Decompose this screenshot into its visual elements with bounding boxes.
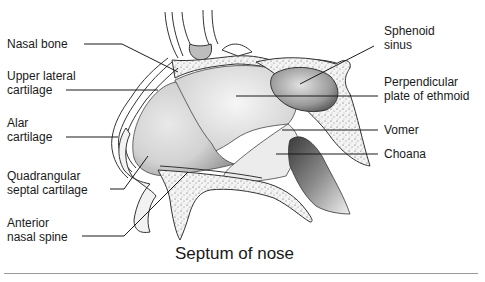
leader-nasal-bone xyxy=(84,44,178,72)
label-nasal-bone: Nasal bone xyxy=(7,37,68,51)
label-sphenoid-sinus: Sphenoid sinus xyxy=(384,24,435,52)
label-quadrangular-septal-cartilage: Quadrangular septal cartilage xyxy=(7,169,88,197)
label-perpendicular-plate: Perpendicular plate of ethmoid xyxy=(384,75,469,103)
label-anterior-nasal-spine: Anterior nasal spine xyxy=(7,216,68,244)
caption-divider xyxy=(4,273,478,274)
hard-palate xyxy=(158,170,312,240)
label-upper-lateral-cartilage: Upper lateral cartilage xyxy=(7,69,76,97)
label-choana: Choana xyxy=(384,147,426,161)
diagram-title: Septum of nose xyxy=(175,244,294,264)
frontal-sinus xyxy=(189,44,211,60)
label-vomer: Vomer xyxy=(384,123,419,137)
label-alar-cartilage: Alar cartilage xyxy=(7,116,52,144)
